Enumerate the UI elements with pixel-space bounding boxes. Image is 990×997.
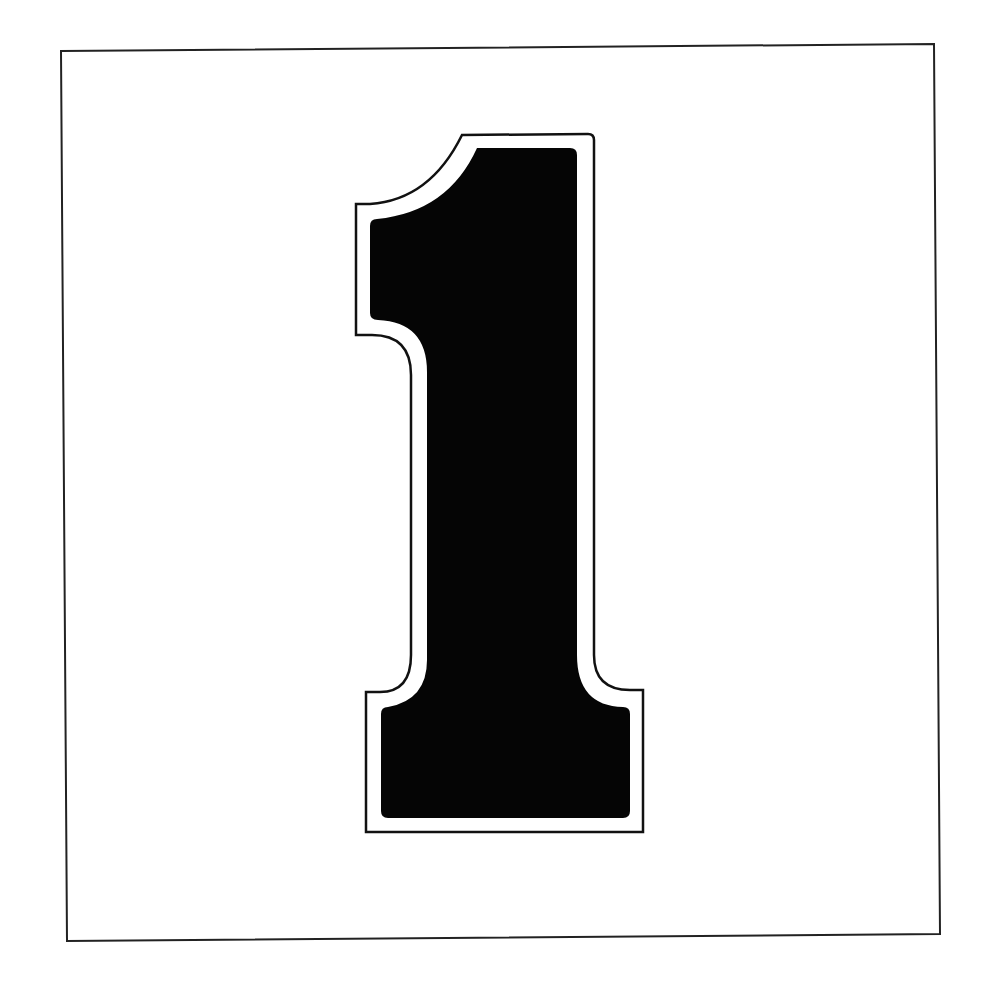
numeral-one-figure	[0, 0, 990, 997]
